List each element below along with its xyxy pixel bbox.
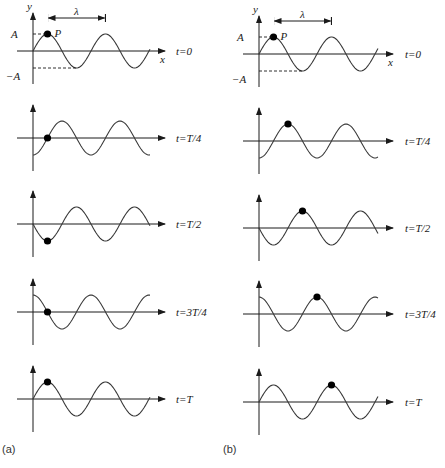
time-label: t=T/2: [176, 218, 202, 230]
particle-dot: [44, 308, 51, 315]
time-label: t=T: [405, 396, 422, 408]
wave-diagram: t=0A−AyxPλt=T/4t=T/2t=3T/4t=Tt=0A−AyxPλt…: [0, 0, 445, 468]
time-label: t=3T/4: [176, 306, 207, 318]
snapshot-a-0: t=0A−AyxPλ: [6, 0, 192, 84]
particle-dot: [44, 134, 51, 141]
wavelength-label: λ: [299, 8, 305, 20]
y-axis-label: y: [26, 0, 32, 12]
panel-b-label: (b): [223, 443, 236, 455]
particle-dot: [299, 207, 306, 214]
time-label: t=0: [176, 45, 192, 57]
particle-dot: [44, 237, 51, 244]
wavelength-label: λ: [73, 5, 79, 17]
time-label: t=T: [176, 393, 193, 405]
point-p-label: P: [280, 30, 288, 42]
snapshot-a-2: t=T/2: [17, 191, 202, 257]
time-label: t=T/4: [176, 132, 202, 144]
time-label: t=T/4: [405, 135, 431, 147]
neg-amplitude-label: −A: [232, 73, 246, 85]
time-label: t=0: [405, 48, 421, 60]
snapshot-a-4: t=T: [17, 366, 193, 432]
snapshot-a-1: t=T/4: [17, 105, 202, 171]
amplitude-label: A: [236, 31, 244, 43]
x-axis-label: x: [387, 56, 393, 68]
snapshot-b-2: t=T/2: [243, 195, 431, 261]
snapshot-a-3: t=3T/4: [17, 279, 207, 345]
x-axis-label: x: [159, 53, 165, 65]
snapshot-b-4: t=T: [243, 369, 422, 435]
particle-dot: [284, 120, 291, 127]
snapshot-b-3: t=3T/4: [243, 281, 436, 347]
particle-dot: [328, 381, 335, 388]
y-axis-label: y: [252, 3, 258, 15]
particle-dot: [44, 378, 51, 385]
panel-a-label: (a): [2, 443, 15, 455]
particle-dot: [313, 293, 320, 300]
time-label: t=3T/4: [405, 308, 436, 320]
neg-amplitude-label: −A: [6, 70, 20, 82]
point-p-label: P: [54, 27, 62, 39]
snapshot-b-0: t=0A−AyxPλ: [232, 3, 421, 87]
amplitude-label: A: [10, 28, 18, 40]
time-label: t=T/2: [405, 222, 431, 234]
snapshot-b-1: t=T/4: [243, 108, 431, 174]
